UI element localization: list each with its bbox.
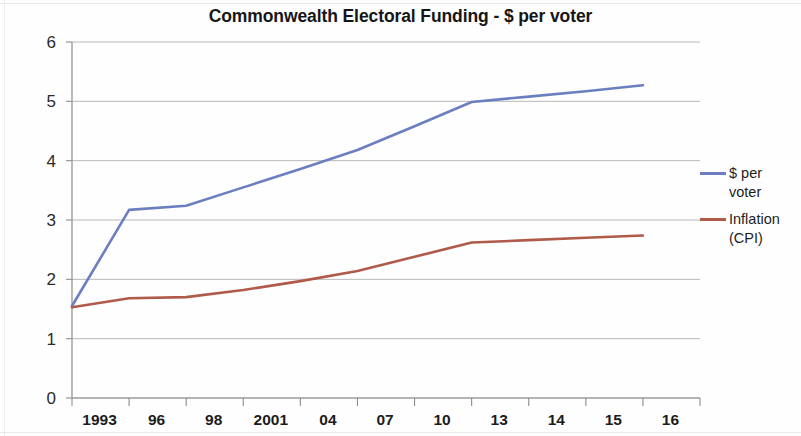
y-tick-label: 5 [47,92,56,111]
x-axis-tick-marks [72,398,700,406]
x-tick-label: 07 [376,411,393,428]
y-axis-tick-labels: 0123456 [47,33,56,408]
series-line-per-voter [72,85,643,306]
y-tick-label: 2 [47,270,56,289]
x-tick-label: 14 [548,411,566,428]
y-tick-label: 6 [47,33,56,52]
gridlines-group [66,42,700,398]
x-tick-label: 96 [148,411,166,428]
chart-plot-area: 0123456 19939698200104071013141516 [0,0,801,436]
y-tick-label: 0 [47,389,56,408]
x-tick-label: 10 [433,411,450,428]
chart-container: Commonwealth Electoral Funding - $ per v… [0,0,801,436]
x-axis-tick-labels: 19939698200104071013141516 [82,411,679,428]
y-tick-label: 3 [47,211,56,230]
x-tick-label: 15 [605,411,623,428]
x-tick-label: 16 [662,411,680,428]
legend-entry[interactable]: Inflation (CPI) [700,210,801,248]
legend-label: Inflation (CPI) [729,210,780,248]
legend-entry[interactable]: $ per voter [700,164,801,202]
chart-legend: $ per voterInflation (CPI) [700,164,801,256]
y-tick-label: 1 [47,330,56,349]
legend-color-swatch [700,172,726,175]
x-tick-label: 2001 [254,411,289,428]
series-line-inflation-cpi [72,235,643,307]
legend-color-swatch [700,218,726,221]
legend-label: $ per voter [729,164,762,202]
data-series-group [72,85,643,307]
x-tick-label: 1993 [82,411,117,428]
x-tick-label: 13 [491,411,509,428]
y-tick-label: 4 [47,152,56,171]
x-tick-label: 04 [319,411,337,428]
x-tick-label: 98 [205,411,223,428]
